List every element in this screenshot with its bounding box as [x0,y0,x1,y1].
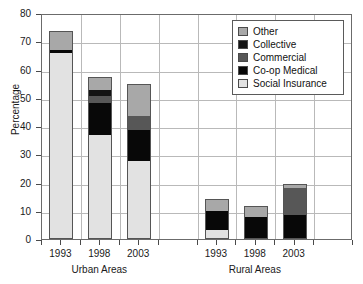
bar-segment [283,184,307,188]
y-axis-title: Percentage [10,62,21,158]
bar-stack[interactable] [88,13,112,239]
bar-segment [127,84,151,116]
bar-segment [88,135,112,239]
x-gridline [81,15,82,239]
bar-segment [88,77,112,89]
x-tick-mark-minor [235,240,236,245]
bar-segment [49,50,73,53]
bar-segment [244,217,268,238]
legend-item[interactable]: Collective [238,38,338,51]
bar-segment [88,90,112,97]
y-tick-label: 60 [1,66,31,76]
y-tick-label: 40 [1,122,31,132]
x-tick-label: 2003 [113,248,163,259]
x-tick-mark-minor [352,240,353,245]
legend-label: Other [253,27,278,37]
y-tick-label: 10 [1,207,31,217]
legend-swatch-icon [238,79,248,88]
bar-stack[interactable] [205,13,229,239]
x-tick-mark [99,240,100,245]
x-tick-mark-minor [158,240,159,245]
x-gridline [120,15,121,239]
bar-segment [127,130,151,161]
y-tick-label: 20 [1,179,31,189]
x-tick-label: 2003 [269,248,319,259]
bar-segment [49,53,73,239]
bar-segment [49,31,73,50]
x-group-label: Rural Areas [195,264,315,275]
x-tick-mark-minor [274,240,275,245]
legend-label: Collective [253,40,296,50]
chart-legend: OtherCollectiveCommercialCo-op MedicalSo… [232,20,344,95]
y-tick-label: 70 [1,37,31,47]
x-tick-mark-minor [80,240,81,245]
legend-swatch-icon [238,53,248,62]
bar-segment [244,206,268,217]
x-tick-mark-minor [197,240,198,245]
x-group-label: Urban Areas [39,264,159,275]
bar-stack[interactable] [49,13,73,239]
legend-item[interactable]: Co-op Medical [238,64,338,77]
bar-segment [205,199,229,211]
x-gridline [198,15,199,239]
y-tick-label: 50 [1,94,31,104]
bar-segment [283,215,307,239]
bar-segment [205,230,229,239]
bar-segment [244,238,268,239]
x-tick-mark [216,240,217,245]
x-tick-mark [60,240,61,245]
y-tick-label: 0 [1,235,31,245]
stacked-bar-chart: Percentage 01020304050607080 19931998200… [0,0,363,284]
x-tick-mark [294,240,295,245]
legend-item[interactable]: Other [238,25,338,38]
x-tick-mark [138,240,139,245]
legend-item[interactable]: Social Insurance [238,77,338,90]
legend-swatch-icon [238,27,248,36]
legend-label: Commercial [253,53,306,63]
legend-item[interactable]: Commercial [238,51,338,64]
x-tick-mark [255,240,256,245]
legend-swatch-icon [238,40,248,49]
bar-segment [127,161,151,239]
legend-swatch-icon [238,66,248,75]
y-tick-label: 30 [1,150,31,160]
bar-segment [283,188,307,215]
legend-label: Social Insurance [253,79,327,89]
y-tick-label: 80 [1,9,31,19]
x-tick-mark-minor [41,240,42,245]
legend-label: Co-op Medical [253,66,317,76]
bar-stack[interactable] [127,13,151,239]
bar-segment [127,116,151,130]
bar-segment [88,96,112,103]
x-tick-mark-minor [119,240,120,245]
bar-segment [88,103,112,135]
x-tick-mark-minor [313,240,314,245]
x-gridline [159,15,160,239]
bar-segment [205,211,229,230]
